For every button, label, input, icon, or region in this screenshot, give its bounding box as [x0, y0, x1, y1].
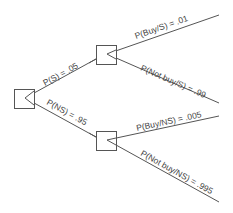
survey-decision-node — [89, 46, 117, 65]
edge-notbuy-given-ns — [107, 140, 219, 202]
no-survey-decision-node — [89, 132, 117, 151]
label-p-notbuy-ns: P(Not buy/NS) = .995 — [139, 148, 215, 196]
label-p-s: P(S) = .05 — [41, 60, 80, 87]
label-p-buy-s: P(Buy/S) = .01 — [133, 13, 189, 41]
label-p-notbuy-s: P(Not buy/S) = .99 — [139, 63, 208, 100]
root-decision-node — [15, 90, 35, 109]
label-p-buy-ns: P(Buy/NS) = .005 — [135, 109, 202, 133]
decision-tree-diagram: P(S) = .05 P(NS) = .95 P(Buy/S) = .01 P(… — [0, 0, 233, 213]
